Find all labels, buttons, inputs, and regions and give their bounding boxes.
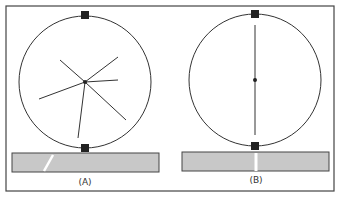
center-dot-a — [83, 80, 87, 84]
panel-label-b: (B) — [249, 175, 262, 185]
panel-b — [182, 10, 329, 171]
top-square-b — [251, 10, 259, 18]
center-dot-b — [253, 78, 257, 82]
bar-a — [12, 153, 159, 172]
bottom-square-a — [81, 144, 89, 152]
panel-label-a: (A) — [78, 177, 91, 187]
spokes-a — [39, 57, 126, 138]
bottom-square-b — [251, 142, 259, 150]
top-square-a — [81, 11, 89, 19]
panel-a — [12, 11, 159, 172]
figure-canvas — [0, 0, 340, 198]
